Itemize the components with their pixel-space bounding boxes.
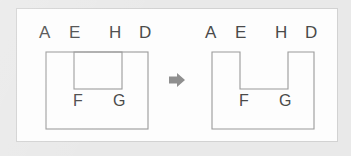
right-label-F: F	[239, 93, 249, 109]
diagram-card: A E H D F G A E H D F	[16, 8, 338, 142]
u-shape-outline	[212, 52, 314, 129]
right-label-G: G	[279, 93, 291, 109]
diagram-root: A E H D F G A E H D F	[0, 0, 351, 156]
right-figure-shape	[17, 9, 339, 143]
right-figure-group: A E H D F G	[17, 9, 339, 143]
